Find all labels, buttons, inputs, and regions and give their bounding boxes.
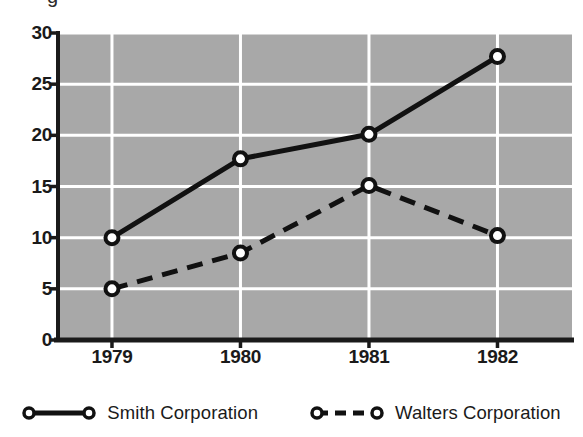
legend-marker [372, 408, 382, 418]
x-axis-tick-label: 1981 [329, 347, 409, 366]
chart-svg [0, 0, 583, 355]
line-chart-figure: g 051015202530 1979198019811982 Smith Co… [0, 0, 583, 437]
data-point-marker [362, 179, 375, 192]
y-axis-tick-label: 10 [12, 228, 52, 247]
legend-label: Smith Corporation [107, 404, 258, 423]
data-point-marker [362, 128, 375, 141]
legend-swatch-solid [22, 403, 96, 423]
y-axis-tick-label: 15 [12, 177, 52, 196]
data-point-marker [105, 231, 118, 244]
legend-item[interactable]: Walters Corporation [310, 403, 561, 423]
chart-plot-area: 051015202530 [0, 0, 583, 355]
legend-swatch-dashed [310, 403, 384, 423]
x-axis-tick-label: 1980 [200, 347, 280, 366]
x-axis-tick-label: 1979 [72, 347, 152, 366]
legend-label: Walters Corporation [395, 404, 561, 423]
x-axis-tick-label: 1982 [457, 347, 537, 366]
data-point-marker [234, 247, 247, 260]
y-axis-tick-label: 20 [12, 125, 52, 144]
y-axis-tick-label: 5 [12, 279, 52, 298]
legend-marker [24, 408, 34, 418]
y-axis-tick-label: 25 [12, 74, 52, 93]
data-point-marker [105, 282, 118, 295]
data-point-marker [234, 152, 247, 165]
data-point-marker [491, 229, 504, 242]
y-axis-tick-label: 30 [12, 23, 52, 42]
y-axis-tick-labels: 051015202530 [8, 0, 52, 355]
legend-item[interactable]: Smith Corporation [22, 403, 258, 423]
legend-marker [84, 408, 94, 418]
data-point-marker [491, 50, 504, 63]
legend-marker [312, 408, 322, 418]
chart-legend: Smith CorporationWalters Corporation [0, 396, 583, 430]
x-axis-tick-labels: 1979198019811982 [0, 347, 583, 377]
